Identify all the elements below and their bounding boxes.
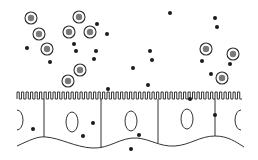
- particle-core: [44, 46, 50, 52]
- free-molecule-dot: [209, 72, 213, 76]
- free-molecule-dot: [228, 62, 232, 66]
- particle-core: [76, 14, 82, 20]
- free-molecule-dot: [150, 58, 154, 62]
- free-molecule-dot: [48, 60, 52, 64]
- particle-core: [36, 31, 42, 37]
- ringed-particle: [33, 28, 45, 40]
- microvilli-border: [17, 92, 242, 99]
- free-molecule-dot: [94, 49, 98, 53]
- ringed-particle: [216, 72, 228, 84]
- cell-nucleus: [181, 109, 193, 129]
- microvilli-line: [17, 92, 242, 99]
- lumen-particles: [25, 11, 239, 151]
- free-molecule-dot: [148, 49, 152, 53]
- ringed-particle: [84, 26, 96, 38]
- free-molecule-dot: [31, 127, 35, 131]
- epithelium-diagram: [0, 0, 258, 160]
- particle-core: [77, 67, 83, 73]
- free-molecule-dot: [72, 42, 76, 46]
- free-molecule-dot: [137, 133, 141, 137]
- particle-core: [65, 78, 71, 84]
- particle-core: [87, 29, 93, 35]
- particle-core: [219, 75, 225, 81]
- free-molecule-dot: [74, 49, 78, 53]
- particle-core: [66, 29, 72, 35]
- partial-nucleus: [17, 110, 23, 130]
- free-molecule-dot: [106, 87, 110, 91]
- free-molecule-dot: [92, 57, 96, 61]
- ringed-particle: [41, 43, 53, 55]
- diagram-canvas: [0, 0, 258, 160]
- free-molecule-dot: [188, 97, 192, 101]
- partial-nucleus: [235, 110, 241, 130]
- basal-membrane: [17, 136, 244, 148]
- free-molecule-dot: [81, 134, 85, 138]
- free-molecule-dot: [25, 46, 29, 50]
- free-molecule-dot: [129, 147, 133, 151]
- particle-core: [203, 46, 209, 52]
- epithelial-cells: [17, 99, 241, 148]
- ringed-particle: [73, 11, 85, 23]
- particle-core: [28, 15, 34, 21]
- free-molecule-dot: [91, 121, 95, 125]
- free-molecule-dot: [168, 11, 172, 15]
- free-molecule-dot: [215, 25, 219, 29]
- basal-wave-line: [17, 136, 244, 148]
- particle-core: [230, 51, 236, 57]
- free-molecule-dot: [105, 32, 109, 36]
- free-molecule-dot: [131, 66, 135, 70]
- free-molecule-dot: [146, 83, 150, 87]
- cell-nucleus: [125, 111, 137, 131]
- cell-nucleus: [66, 112, 78, 132]
- ringed-particle: [227, 48, 239, 60]
- free-molecule-dot: [200, 59, 204, 63]
- ringed-particle: [200, 43, 212, 55]
- ringed-particle: [62, 75, 74, 87]
- free-molecule-dot: [213, 16, 217, 20]
- free-molecule-dot: [95, 22, 99, 26]
- free-molecule-dot: [213, 113, 217, 117]
- ringed-particle: [63, 26, 75, 38]
- ringed-particle: [74, 64, 86, 76]
- ringed-particle: [25, 12, 37, 24]
